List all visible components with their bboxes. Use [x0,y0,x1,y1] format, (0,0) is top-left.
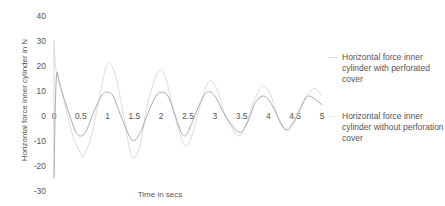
legend-label-no-perforation: Horizontal force inner cylinder without … [342,111,444,143]
y-axis-ticks: 403020100-10-20-30 [34,11,47,196]
x-tick-label: 2 [159,111,164,121]
y-axis-title: Horizontal force inner cylinder in N [20,39,29,161]
y-tick-label: 40 [37,11,47,21]
x-tick-label: 1 [105,111,110,121]
x-tick-label: 4 [266,111,271,121]
legend-line-no-perforation [328,116,338,117]
y-tick-label: 10 [37,86,47,96]
x-axis-title: Time in secs [138,190,183,199]
y-tick-label: 30 [37,36,47,46]
legend-item-perforated: Horizontal force inner cylinder with per… [342,52,445,85]
y-tick-label: 0 [41,111,46,121]
y-tick-label: 20 [37,61,47,71]
legend-label-perforated: Horizontal force inner cylinder with per… [342,52,430,84]
line-chart: 403020100-10-20-30 00.511.522.533.544.55… [0,0,445,206]
series-line-perforated [54,46,322,158]
x-tick-label: 3 [212,111,217,121]
y-tick-label: -10 [34,136,47,146]
x-tick-label: 1.5 [128,111,140,121]
x-tick-label: 5 [320,111,325,121]
legend-line-perforated [328,57,338,58]
y-tick-label: -30 [34,186,47,196]
x-tick-label: 2.5 [182,111,194,121]
x-tick-label: 3.5 [236,111,248,121]
x-tick-label: 0.5 [75,111,87,121]
y-tick-label: -20 [34,161,47,171]
legend-item-no-perforation: Horizontal force inner cylinder without … [342,111,445,144]
